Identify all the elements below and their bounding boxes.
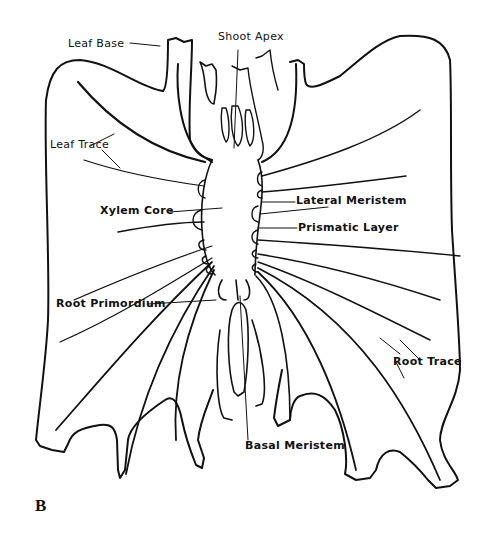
label-leaf-base: Leaf Base [68,37,124,50]
label-shoot-apex: Shoot Apex [218,30,284,43]
label-root-trace: Root Trace [393,355,462,368]
label-basal-meristem: Basal Meristem [245,439,345,452]
label-root-primordium: Root Primordium [56,297,166,310]
label-leaf-trace: Leaf Trace [50,138,109,151]
label-lateral-meristem: Lateral Meristem [296,194,407,207]
panel-label: B [35,496,46,516]
label-prismatic-layer: Prismatic Layer [298,221,399,234]
label-xylem-core: Xylem Core [100,204,174,217]
plant-cross-section-drawing [0,0,493,534]
botanical-diagram: Leaf Base Shoot Apex Leaf Trace Lateral … [0,0,493,534]
